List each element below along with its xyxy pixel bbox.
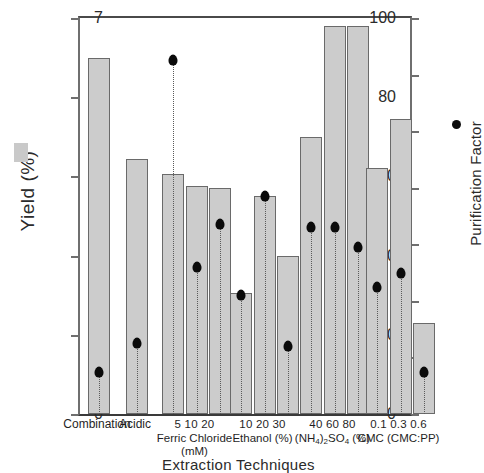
y-tick-left bbox=[71, 176, 78, 178]
y-tick-left bbox=[71, 18, 78, 20]
y-tick-left bbox=[71, 256, 78, 258]
y-axis-right-title: Purification Factor bbox=[467, 94, 484, 274]
x-group-label: 0.1 0.3 0.6CMC (CMC:PP) bbox=[339, 418, 459, 445]
y-tick-left bbox=[71, 335, 78, 337]
y-tick-label-left: 80 bbox=[378, 88, 396, 106]
dot-leader-line bbox=[377, 287, 378, 414]
dot-leader-line bbox=[358, 247, 359, 414]
data-point-dot bbox=[307, 222, 316, 233]
bar bbox=[88, 58, 110, 414]
y-tick-right bbox=[412, 301, 419, 303]
dot-leader-line bbox=[241, 295, 242, 414]
y-tick-left bbox=[71, 97, 78, 99]
x-group-levels: 0.1 0.3 0.6 bbox=[339, 418, 459, 432]
dot-leader-line bbox=[173, 60, 174, 414]
dot-leader-line bbox=[401, 273, 402, 414]
data-point-dot bbox=[330, 222, 339, 233]
y-axis-left-title: Yield (%) bbox=[17, 111, 39, 271]
data-point-dot bbox=[192, 261, 201, 272]
x-axis-title: Extraction Techniques bbox=[0, 456, 477, 473]
dot-leader-line bbox=[137, 343, 138, 414]
data-point-dot bbox=[237, 290, 246, 301]
y-tick-label-left: 100 bbox=[369, 9, 396, 27]
dot-leader-line bbox=[335, 227, 336, 414]
data-point-dot bbox=[260, 191, 269, 202]
y-tick-right bbox=[412, 188, 419, 190]
y-tick-label-right: 7 bbox=[94, 9, 103, 27]
data-point-dot bbox=[354, 242, 363, 253]
y-tick-right bbox=[412, 244, 419, 246]
y-tick-left bbox=[71, 414, 78, 416]
legend-bar-swatch bbox=[14, 143, 28, 162]
data-point-dot bbox=[169, 55, 178, 66]
legend-dot-swatch bbox=[452, 120, 461, 129]
data-point-dot bbox=[133, 338, 142, 349]
data-point-dot bbox=[216, 219, 225, 230]
y-tick-right bbox=[412, 414, 419, 416]
data-point-dot bbox=[373, 281, 382, 292]
y-tick-right bbox=[412, 131, 419, 133]
plot-area: 020406080100 01234567 bbox=[78, 16, 412, 416]
dot-leader-line bbox=[99, 372, 100, 414]
data-point-dot bbox=[284, 341, 293, 352]
data-point-dot bbox=[396, 267, 405, 278]
y-tick-right bbox=[412, 75, 419, 77]
dot-leader-line bbox=[220, 225, 221, 415]
data-point-dot bbox=[420, 366, 429, 377]
dot-leader-line bbox=[197, 267, 198, 414]
dot-leader-line bbox=[311, 227, 312, 414]
dot-leader-line bbox=[288, 346, 289, 414]
dot-leader-line bbox=[265, 196, 266, 414]
y-tick-right bbox=[412, 18, 419, 20]
x-group-name: CMC (CMC:PP) bbox=[339, 432, 459, 446]
x-group-name-cont: (mM) bbox=[135, 445, 255, 459]
dot-leader-line bbox=[424, 372, 425, 414]
data-point-dot bbox=[95, 366, 104, 377]
